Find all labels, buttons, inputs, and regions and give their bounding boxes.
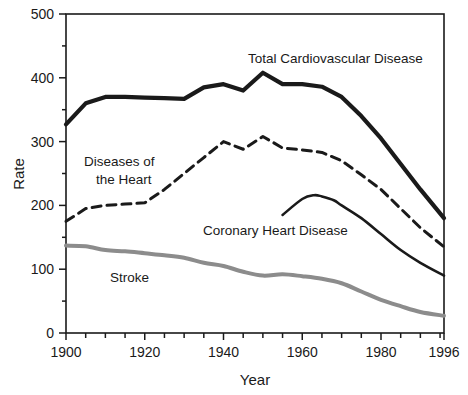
y-tick-label: 400 bbox=[31, 70, 55, 86]
x-tick-label: 1960 bbox=[287, 344, 318, 360]
x-tick-label: 1900 bbox=[50, 344, 81, 360]
series-annotation-label: Coronary Heart Disease bbox=[203, 223, 348, 238]
cardiovascular-mortality-chart: 0100200300400500 19001920194019601980199… bbox=[0, 0, 468, 395]
y-tick-label: 0 bbox=[46, 325, 54, 341]
x-axis-tick-labels: 190019201940196019801996 bbox=[50, 344, 459, 360]
y-tick-label: 500 bbox=[31, 6, 55, 22]
series-annotation-group: Total Cardiovascular DiseaseDiseases oft… bbox=[84, 51, 423, 285]
series-annotation-label: Diseases of bbox=[84, 154, 155, 169]
series-annotation-label: Total Cardiovascular Disease bbox=[248, 51, 423, 66]
x-axis-ticks bbox=[66, 333, 444, 340]
series-annotation-label: Stroke bbox=[110, 270, 149, 285]
y-axis-tick-labels: 0100200300400500 bbox=[31, 6, 55, 341]
y-tick-label: 300 bbox=[31, 134, 55, 150]
y-axis-title: Rate bbox=[10, 158, 27, 190]
x-tick-label: 1996 bbox=[428, 344, 459, 360]
x-tick-label: 1920 bbox=[129, 344, 160, 360]
chart-svg: 0100200300400500 19001920194019601980199… bbox=[0, 0, 468, 395]
series-annotation-label: the Heart bbox=[96, 172, 152, 187]
y-tick-label: 100 bbox=[31, 261, 55, 277]
x-tick-label: 1980 bbox=[365, 344, 396, 360]
x-axis-title: Year bbox=[240, 371, 270, 388]
y-axis-ticks bbox=[59, 14, 66, 333]
x-tick-label: 1940 bbox=[208, 344, 239, 360]
y-tick-label: 200 bbox=[31, 197, 55, 213]
